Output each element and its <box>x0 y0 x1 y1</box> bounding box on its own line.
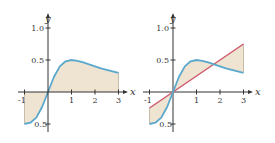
right-x-arrow-icon <box>248 90 253 94</box>
left-xtick-label-1: 1 <box>69 96 74 105</box>
right-xtick-label-3: 3 <box>241 96 246 105</box>
right-y-axis-label: y <box>169 13 176 24</box>
left-chart: y x 1.0 0.5 0.5 -1 1 2 3 <box>18 13 136 132</box>
left-y-axis-label: y <box>44 13 51 24</box>
right-ytick-label-1: 1.0 <box>156 24 169 33</box>
right-ytick-label-05: 0.5 <box>156 56 169 65</box>
left-x-arrow-icon <box>123 90 128 94</box>
left-x-axis-label: x <box>130 86 136 97</box>
right-xtick-label-1: 1 <box>194 96 199 105</box>
figure: y x 1.0 0.5 0.5 -1 1 2 3 y x 1. <box>0 0 275 143</box>
right-ytick-label-neg05: 0.5 <box>159 120 172 129</box>
right-x-axis-label: x <box>255 86 261 97</box>
left-xtick-label-3: 3 <box>116 96 121 105</box>
left-ytick-label-1: 1.0 <box>31 24 44 33</box>
right-chart: y x 1.0 0.5 0.5 -1 1 2 3 <box>143 13 261 132</box>
left-xtick-label-2: 2 <box>92 96 97 105</box>
left-ytick-label-neg05: 0.5 <box>34 120 47 129</box>
left-xtick-label-neg1: -1 <box>18 96 26 105</box>
right-xtick-label-neg1: -1 <box>144 96 152 105</box>
right-xtick-label-2: 2 <box>217 96 222 105</box>
left-ytick-label-05: 0.5 <box>31 56 44 65</box>
